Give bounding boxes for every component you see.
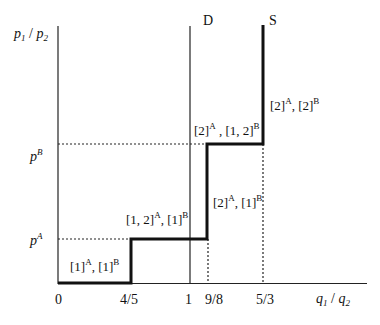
region-label-5: [2]A, [2]B [270, 99, 319, 112]
x-tick-9-8: 9/8 [205, 293, 223, 307]
y-tick-pB: pB [30, 150, 43, 164]
x-tick-1: 1 [185, 293, 192, 307]
demand-label: D [203, 14, 213, 28]
y-axis-label: p1 / p2 [14, 27, 48, 41]
supply-label: S [269, 14, 277, 28]
region-label-1: [1]A, [1]B [70, 260, 119, 273]
supply-curve [58, 25, 263, 283]
diagram-canvas [0, 0, 380, 325]
region-label-2: [1, 2]A, [1]B [126, 213, 188, 226]
x-axis-label: q1 / q2 [316, 292, 350, 306]
x-tick-5-3: 5/3 [256, 293, 274, 307]
x-tick-4-5: 4/5 [120, 293, 138, 307]
region-label-4: [2]A , [1, 2]B [194, 124, 260, 137]
y-tick-pA: pA [30, 234, 43, 248]
region-label-3: [2]A, [1]B [213, 196, 262, 209]
x-tick-0: 0 [55, 293, 62, 307]
